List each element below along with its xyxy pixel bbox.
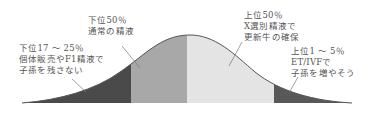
bell-curve-diagram: 下位17 ～ 25％ 個体販売やF1精液で 子孫を残さない 下位50％ 通常の精… bbox=[0, 0, 368, 114]
leader-line-top-tail bbox=[289, 77, 298, 93]
label-upper-half: 上位50％ X選別精液で 更新牛の確保 bbox=[244, 10, 299, 43]
segment-lower-half bbox=[131, 0, 187, 104]
label-bottom-tail-line-1: 下位17 ～ 25％ bbox=[19, 43, 104, 54]
label-lower-half-line-1: 下位50％ bbox=[88, 15, 134, 26]
leader-line-bottom-tail bbox=[72, 79, 86, 92]
label-top-tail: 上位1 ～ 5％ ET/IVFで 子孫を増やそう bbox=[291, 46, 355, 79]
label-upper-half-line-3: 更新牛の確保 bbox=[244, 32, 299, 43]
label-bottom-tail-line-2: 個体販売やF1精液で bbox=[19, 54, 104, 65]
label-upper-half-line-2: X選別精液で bbox=[244, 21, 299, 32]
label-bottom-tail: 下位17 ～ 25％ 個体販売やF1精液で 子孫を残さない bbox=[19, 43, 104, 76]
label-top-tail-line-3: 子孫を増やそう bbox=[291, 68, 355, 79]
label-top-tail-line-1: 上位1 ～ 5％ bbox=[291, 46, 355, 57]
label-lower-half: 下位50％ 通常の精液 bbox=[88, 15, 134, 37]
label-lower-half-line-2: 通常の精液 bbox=[88, 26, 134, 37]
label-bottom-tail-line-3: 子孫を残さない bbox=[19, 65, 104, 76]
label-top-tail-line-2: ET/IVFで bbox=[291, 57, 355, 68]
label-upper-half-line-1: 上位50％ bbox=[244, 10, 299, 21]
